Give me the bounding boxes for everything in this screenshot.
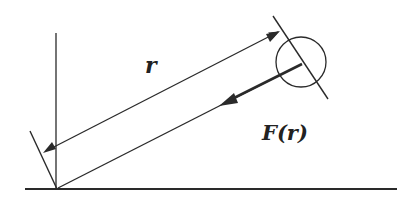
rod-force-diagram: r F(r) — [0, 0, 414, 209]
dimension-arrowhead-start-icon — [43, 142, 56, 153]
force-arrow-line — [230, 64, 302, 100]
mass-circle — [276, 37, 326, 87]
force-arrowhead-icon — [219, 93, 238, 106]
force-label: F(r) — [261, 120, 308, 145]
dimension-arrowhead-end-icon — [266, 31, 280, 42]
dimension-line-r — [48, 32, 278, 150]
pivot-tick-line — [30, 131, 57, 189]
distance-label: r — [145, 52, 158, 78]
